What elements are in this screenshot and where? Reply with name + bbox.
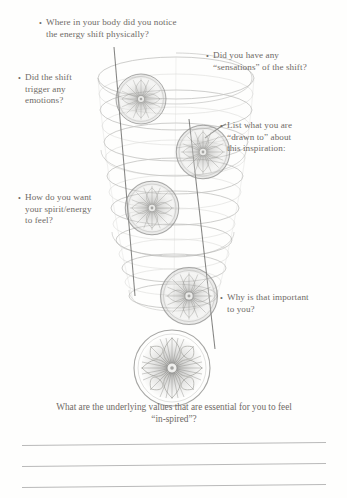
answer-line[interactable] [22,442,326,446]
question-line: trigger any [25,84,117,96]
question-line: the energy shift physically? [46,29,226,41]
answer-line[interactable] [22,484,326,488]
closing-prompt-line: “in-spired”? [24,413,324,425]
question-line: this inspiration: [227,143,339,155]
question-line: emotions? [25,95,117,107]
question-line: How do you want [25,192,135,204]
question-why-important: • Why is that important to you? [227,292,341,315]
question-spirit-energy: • How do you want your spirit/energy to … [25,192,135,227]
question-line: “drawn to” about [227,132,339,144]
question-line: “sensations” of the shift? [213,62,341,74]
question-line: Did you have any [213,50,341,62]
answer-line[interactable] [22,463,326,467]
question-emotions: • Did the shift trigger any emotions? [25,72,117,107]
question-where-in-body: • Where in your body did you notice the … [46,17,226,40]
question-drawn-to: • List what you are “drawn to” about thi… [227,120,339,155]
bullet-icon: • [39,18,42,30]
question-line: Where in your body did you notice [46,17,226,29]
question-line: to feel? [25,215,135,227]
bullet-icon: • [206,51,209,63]
worksheet-page: • Where in your body did you notice the … [0,0,347,498]
question-line: to you? [227,304,341,316]
bullet-icon: • [18,73,21,85]
bullet-icon: • [220,293,223,305]
question-sensations: • Did you have any “sensations” of the s… [213,50,341,73]
closing-prompt: What are the underlying values that are … [24,401,324,426]
closing-prompt-line: What are the underlying values that are … [56,402,292,412]
bullet-icon: • [18,193,21,205]
question-line: your spirit/energy [25,204,135,216]
question-line: Did the shift [25,72,117,84]
question-line: Why is that important [227,292,341,304]
question-line: List what you are [227,120,339,132]
bullet-icon: • [220,121,223,133]
